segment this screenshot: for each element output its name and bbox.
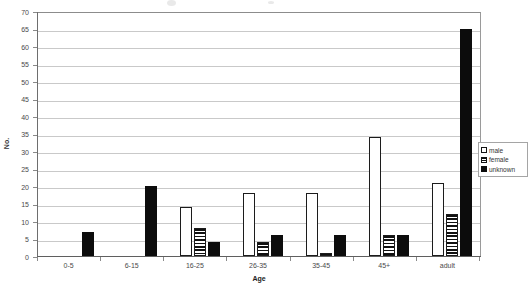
y-tick-label: 65 <box>3 26 29 33</box>
bar-female-35-45 <box>320 253 332 257</box>
y-tick-mark <box>33 117 37 118</box>
legend-item-unknown: unknown <box>481 165 525 174</box>
bar-unknown-35-45 <box>334 235 346 256</box>
chart-legend: malefemaleunknown <box>478 142 528 177</box>
y-tick-mark <box>33 170 37 171</box>
x-tick-mark <box>100 257 101 261</box>
female-swatch-icon <box>481 157 487 163</box>
x-tick-label: 26-35 <box>226 262 289 270</box>
y-tick-mark <box>33 240 37 241</box>
bar-unknown-adult <box>460 29 472 257</box>
y-tick-label: 45 <box>3 96 29 103</box>
x-tick-mark <box>479 257 480 261</box>
x-axis-line <box>37 256 481 257</box>
bar-male-adult <box>432 183 444 257</box>
x-tick-mark <box>353 257 354 261</box>
unknown-swatch-icon <box>481 166 487 172</box>
x-tick-label: adult <box>416 262 479 270</box>
bar-female-16-25 <box>194 228 206 256</box>
y-tick-mark <box>33 30 37 31</box>
y-tick-mark <box>33 152 37 153</box>
bar-unknown-6-15 <box>145 186 157 256</box>
y-tick-label: 25 <box>3 166 29 173</box>
x-tick-mark <box>226 257 227 261</box>
y-axis-title: No. <box>3 129 10 159</box>
legend-item-female: female <box>481 155 525 164</box>
y-tick-mark <box>33 187 37 188</box>
bar-male-16-25 <box>180 207 192 256</box>
bar-female-adult <box>446 214 458 256</box>
y-tick-mark <box>33 47 37 48</box>
bar-unknown-26-35 <box>271 235 283 256</box>
bar-unknown-0-5 <box>82 232 94 257</box>
x-tick-label: 6-15 <box>100 262 163 270</box>
x-axis-title: Age <box>37 275 481 282</box>
bar-male-35-45 <box>306 193 318 256</box>
y-tick-mark <box>33 82 37 83</box>
x-tick-mark <box>416 257 417 261</box>
y-tick-label: 10 <box>3 219 29 226</box>
y-tick-label: 60 <box>3 44 29 51</box>
x-tick-label: 35-45 <box>290 262 353 270</box>
y-tick-mark <box>33 100 37 101</box>
x-tick-mark <box>163 257 164 261</box>
bar-male-45+ <box>369 137 381 256</box>
x-tick-mark <box>290 257 291 261</box>
y-tick-mark <box>33 135 37 136</box>
y-tick-mark <box>33 65 37 66</box>
y-tick-label: 5 <box>3 236 29 243</box>
bar-male-26-35 <box>243 193 255 256</box>
x-tick-label: 45+ <box>353 262 416 270</box>
legend-item-male: male <box>481 146 525 155</box>
y-tick-label: 20 <box>3 184 29 191</box>
y-tick-label: 55 <box>3 61 29 68</box>
y-tick-label: 50 <box>3 79 29 86</box>
legend-label: unknown <box>489 166 515 173</box>
bar-chart: 0510152025303540455055606570 No. 0-56-15… <box>0 0 532 297</box>
y-tick-mark <box>33 12 37 13</box>
x-tick-label: 16-25 <box>163 262 226 270</box>
y-tick-label: 70 <box>3 9 29 16</box>
y-tick-label: 0 <box>3 254 29 261</box>
y-tick-label: 15 <box>3 201 29 208</box>
legend-label: male <box>489 147 503 154</box>
y-tick-label: 40 <box>3 114 29 121</box>
bar-unknown-16-25 <box>208 242 220 256</box>
bars-layer <box>38 13 480 256</box>
male-swatch-icon <box>481 147 487 153</box>
bar-female-26-35 <box>257 242 269 256</box>
bar-unknown-45+ <box>397 235 409 256</box>
x-tick-label: 0-5 <box>37 262 100 270</box>
y-tick-mark <box>33 205 37 206</box>
legend-label: female <box>489 156 509 163</box>
x-tick-mark <box>37 257 38 261</box>
bar-female-45+ <box>383 235 395 256</box>
y-tick-mark <box>33 222 37 223</box>
